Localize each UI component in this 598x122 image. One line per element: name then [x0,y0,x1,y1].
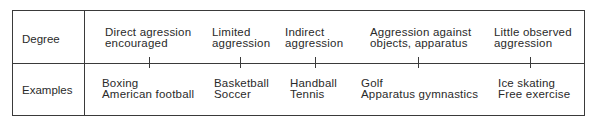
scale-tick-1 [149,57,150,68]
degree-3-line2: aggression [285,38,343,50]
example-4-line2: Apparatus gymnastics [361,89,478,101]
example-3-line2: Tennis [290,89,324,101]
example-5-line2: Free exercise [498,89,570,101]
row-label-examples: Examples [22,84,73,97]
scale-tick-5 [530,57,531,68]
example-1-line2: American football [102,89,194,101]
degree-5-line2: aggression [494,38,552,50]
scale-axis-line [12,63,585,64]
scale-tick-3 [315,57,316,68]
degree-1-line2: encouraged [105,38,168,50]
degree-4-line2: objects, apparatus [370,38,468,50]
scale-tick-2 [240,57,241,68]
scale-tick-4 [418,57,419,68]
row-label-degree: Degree [22,33,60,46]
degree-2-line2: aggression [212,38,270,50]
example-2-line2: Soccer [214,89,251,101]
